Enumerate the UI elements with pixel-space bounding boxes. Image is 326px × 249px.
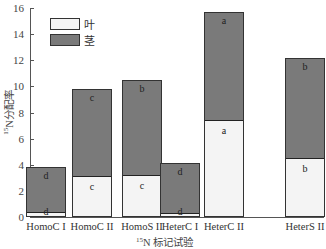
significance-label-leaf: d — [161, 207, 199, 217]
x-tick-label: HeterC I — [162, 221, 198, 232]
x-tick-label: HeterC II — [204, 221, 244, 232]
y-tick-label: 14 — [13, 28, 24, 40]
y-axis-title: 15N分配率 — [1, 90, 16, 135]
legend-swatch-leaf — [50, 18, 80, 30]
y-tick — [30, 113, 34, 114]
x-tick-label: HomoC I — [26, 221, 65, 232]
y-tick-label: 2 — [19, 185, 25, 197]
bar-segment-stem — [205, 13, 243, 123]
y-tick-label: 4 — [19, 159, 25, 171]
y-tick-label: 12 — [13, 54, 24, 66]
bar-homos-ii: bc — [122, 80, 162, 217]
legend-label-leaf: 叶 — [84, 16, 95, 32]
y-tick — [30, 8, 34, 9]
legend-item-leaf: 叶 — [50, 16, 95, 32]
bar-segment-stem — [286, 59, 324, 161]
y-tick-label: 16 — [13, 2, 24, 14]
significance-label-leaf: d — [27, 207, 65, 217]
x-axis-title: 15N 标记试验 — [136, 234, 193, 249]
x-axis — [30, 217, 324, 218]
significance-label-stem: b — [123, 84, 161, 94]
bar-homoc-ii: cc — [72, 89, 112, 217]
y-tick — [30, 86, 34, 87]
bar-homoc-i: dd — [26, 167, 66, 217]
bar-heterc-ii: aa — [204, 12, 244, 217]
y-tick-label: 8 — [19, 107, 25, 119]
x-tick-label: HeterS II — [286, 221, 325, 232]
significance-label-leaf: b — [286, 164, 324, 174]
y-tick — [30, 34, 34, 35]
legend-label-stem: 茎 — [84, 32, 95, 48]
significance-label-leaf: a — [205, 126, 243, 136]
y-tick — [30, 60, 34, 61]
legend-item-stem: 茎 — [50, 32, 95, 48]
significance-label-leaf: c — [123, 181, 161, 191]
y-tick — [30, 139, 34, 140]
y-tick-label: 0 — [19, 211, 25, 223]
y-tick-label: 6 — [19, 133, 25, 145]
bar-heters-ii: bb — [285, 58, 325, 217]
significance-label-stem: b — [286, 62, 324, 72]
significance-label-leaf: c — [73, 182, 111, 192]
x-tick-label: HomoC II — [71, 221, 114, 232]
legend-swatch-stem — [50, 34, 80, 46]
significance-label-stem: d — [27, 171, 65, 181]
significance-label-stem: c — [73, 93, 111, 103]
x-tick-label: HomoS II — [121, 221, 163, 232]
significance-label-stem: a — [205, 16, 243, 26]
y-tick — [30, 165, 34, 166]
significance-label-stem: d — [161, 167, 199, 177]
bar-segment-stem — [123, 81, 161, 178]
bar-segment-stem — [73, 90, 111, 179]
bar-heterc-i: dd — [160, 163, 200, 217]
y-tick — [30, 217, 34, 218]
legend: 叶 茎 — [50, 16, 95, 48]
